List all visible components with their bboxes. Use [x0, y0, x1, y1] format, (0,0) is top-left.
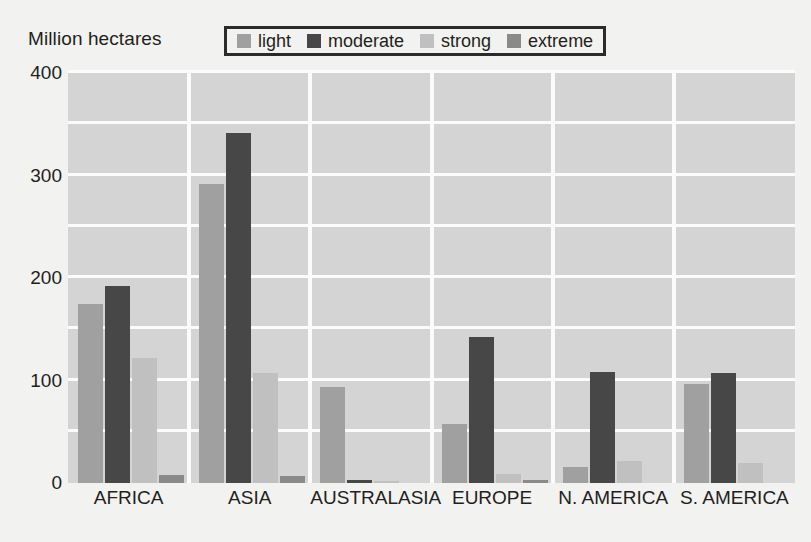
legend-swatch-light — [237, 34, 251, 48]
legend-label-light: light — [258, 31, 291, 52]
bar-light — [684, 384, 709, 483]
x-tick-label: S. AMERICA — [674, 487, 795, 509]
bar-group-s-america — [674, 73, 795, 483]
bar-chart: Million hectares lightmoderatestrongextr… — [0, 0, 811, 542]
bar-group-africa — [68, 73, 189, 483]
bar-moderate — [347, 480, 372, 483]
bar-strong — [132, 358, 157, 483]
y-tick-label: 300 — [2, 165, 62, 187]
bar-light — [320, 387, 345, 483]
legend-entry-light: light — [237, 31, 291, 52]
bar-strong — [617, 461, 642, 483]
bar-extreme — [280, 476, 305, 483]
bar-light — [563, 467, 588, 483]
y-tick-label: 400 — [2, 62, 62, 84]
legend-swatch-moderate — [307, 34, 321, 48]
bar-strong — [253, 373, 278, 483]
x-tick-label: AFRICA — [68, 487, 189, 509]
bar-light — [199, 184, 224, 483]
bar-strong — [374, 481, 399, 483]
y-tick-label: 0 — [2, 472, 62, 494]
y-tick-label: 100 — [2, 370, 62, 392]
legend-label-moderate: moderate — [328, 31, 404, 52]
legend-entry-strong: strong — [420, 31, 491, 52]
bar-moderate — [711, 373, 736, 483]
bar-light — [442, 424, 467, 483]
y-axis-title: Million hectares — [28, 28, 162, 50]
x-tick-label: N. AMERICA — [553, 487, 674, 509]
bar-extreme — [159, 475, 184, 483]
y-axis-ticks: 0100200300400 — [0, 73, 62, 483]
x-tick-label: AUSTRALASIA — [310, 487, 431, 509]
x-axis-labels: AFRICAASIAAUSTRALASIAEUROPEN. AMERICAS. … — [68, 487, 795, 519]
bar-moderate — [590, 372, 615, 483]
legend-entry-moderate: moderate — [307, 31, 404, 52]
bar-light — [78, 304, 103, 483]
legend-swatch-strong — [420, 34, 434, 48]
bar-moderate — [469, 337, 494, 483]
bar-moderate — [226, 133, 251, 483]
bar-group-europe — [432, 73, 553, 483]
bar-moderate — [105, 286, 130, 483]
x-tick-label: ASIA — [189, 487, 310, 509]
x-tick-label: EUROPE — [432, 487, 553, 509]
y-tick-label: 200 — [2, 267, 62, 289]
plot-area — [68, 73, 795, 483]
legend-label-extreme: extreme — [528, 31, 593, 52]
bar-extreme — [523, 480, 548, 483]
legend-swatch-extreme — [507, 34, 521, 48]
bar-group-australasia — [310, 73, 431, 483]
bar-group-n-america — [553, 73, 674, 483]
legend-entry-extreme: extreme — [507, 31, 593, 52]
bar-group-asia — [189, 73, 310, 483]
bar-strong — [738, 463, 763, 484]
bar-strong — [496, 474, 521, 483]
legend-label-strong: strong — [441, 31, 491, 52]
chart-legend: lightmoderatestrongextreme — [224, 26, 606, 56]
